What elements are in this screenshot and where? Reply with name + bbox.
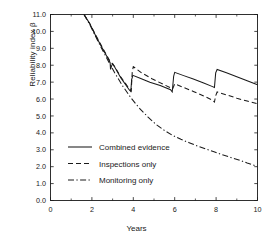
y-tick-label: 2.0 xyxy=(36,162,46,171)
y-tick-label: 8.0 xyxy=(36,61,46,70)
x-tick-label: 8 xyxy=(214,205,218,214)
x-axis-label: Years xyxy=(0,224,273,233)
x-tick-label: 6 xyxy=(173,205,177,214)
y-tick-label: 5.0 xyxy=(36,112,46,121)
chart-plot-area: 0.01.02.03.04.05.06.07.08.09.010.011.002… xyxy=(0,0,273,241)
legend-label-2: Monitoring only xyxy=(99,176,153,185)
x-tick-label: 10 xyxy=(254,205,262,214)
x-tick-label: 2 xyxy=(90,205,94,214)
y-axis-label: Reliability index β xyxy=(28,0,37,115)
reliability-index-chart-figure: 0.01.02.03.04.05.06.07.08.09.010.011.002… xyxy=(0,0,273,241)
y-tick-label: 4.0 xyxy=(36,128,46,137)
axis-frame xyxy=(51,15,258,201)
y-tick-label: 1.0 xyxy=(36,179,46,188)
y-tick-label: 3.0 xyxy=(36,145,46,154)
legend-label-0: Combined evidence xyxy=(99,143,170,152)
y-tick-label: 0.0 xyxy=(36,196,46,205)
y-tick-label: 6.0 xyxy=(36,95,46,104)
series-line-0 xyxy=(84,15,257,92)
x-tick-label: 0 xyxy=(49,205,53,214)
y-tick-label: 9.0 xyxy=(36,44,46,53)
y-tick-label: 7.0 xyxy=(36,78,46,87)
x-tick-label: 4 xyxy=(131,205,135,214)
legend-label-1: Inspections only xyxy=(99,160,156,169)
